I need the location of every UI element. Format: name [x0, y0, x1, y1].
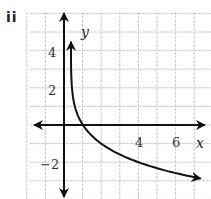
y-tick-4: 4	[48, 45, 56, 60]
graph: 4 2 −2 4 6 x y	[0, 0, 211, 199]
x-tick-6: 6	[172, 135, 180, 150]
x-tick-4: 4	[135, 135, 143, 150]
function-curve	[71, 42, 201, 179]
y-tick-neg2: −2	[40, 157, 59, 172]
y-axis-label: y	[80, 24, 90, 40]
y-tick-2: 2	[48, 83, 56, 98]
x-axis-label: x	[196, 135, 204, 151]
